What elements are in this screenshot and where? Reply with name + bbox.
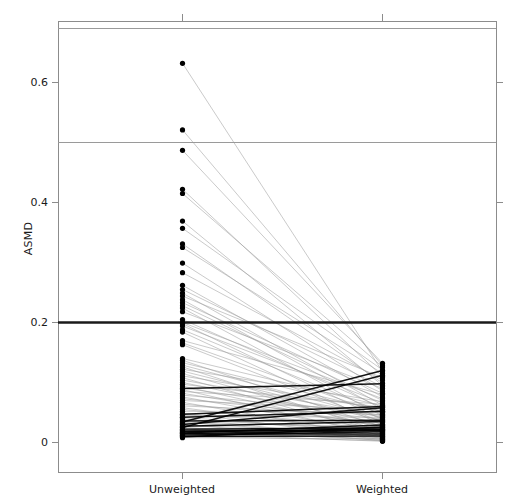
data-point-unweighted: [180, 386, 185, 391]
data-point-weighted: [380, 381, 385, 386]
x-tick-label-unweighted: Unweighted: [122, 483, 242, 496]
data-point-weighted: [380, 392, 385, 397]
slope-line: [183, 273, 383, 380]
data-point-unweighted: [180, 431, 185, 436]
data-point-unweighted: [180, 61, 185, 66]
slope-line: [183, 130, 383, 366]
data-point-unweighted: [180, 261, 185, 266]
slope-line: [183, 330, 383, 413]
y-tick-label-0-4: 0.4: [14, 196, 48, 209]
slope-line: [183, 150, 383, 363]
data-point-weighted: [380, 368, 385, 373]
axis-ticks: [52, 14, 503, 479]
data-point-weighted: [380, 386, 385, 391]
y-tick-label-0-6: 0.6: [14, 76, 48, 89]
data-point-unweighted: [180, 415, 185, 420]
data-point-unweighted: [180, 226, 185, 231]
data-point-unweighted: [180, 270, 185, 275]
plot-area: [0, 0, 512, 504]
data-point-unweighted: [180, 191, 185, 196]
data-point-unweighted: [180, 148, 185, 153]
data-point-weighted: [380, 373, 385, 378]
data-point-unweighted: [180, 245, 185, 250]
slope-lines: [183, 63, 383, 441]
reference-lines: [58, 29, 496, 143]
data-point-unweighted: [180, 219, 185, 224]
data-point-unweighted: [180, 342, 185, 347]
x-tick-label-weighted: Weighted: [322, 483, 442, 496]
data-point-unweighted: [180, 422, 185, 427]
data-point-unweighted: [180, 330, 185, 335]
data-point-weighted: [380, 428, 385, 433]
data-point-weighted: [380, 409, 385, 414]
data-point-unweighted: [180, 309, 185, 314]
y-tick-label-0: 0: [14, 436, 48, 449]
asmd-love-plot-figure: ASMD 0 0.2 0.4 0.6 Unweighted Weighted: [0, 0, 512, 504]
data-point-weighted: [380, 436, 385, 441]
y-tick-label-0-2: 0.2: [14, 316, 48, 329]
data-point-unweighted: [180, 127, 185, 132]
